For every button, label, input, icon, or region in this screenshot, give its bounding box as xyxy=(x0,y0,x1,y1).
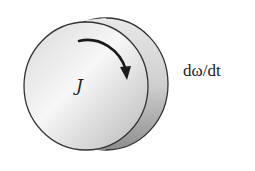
rotating-disk-diagram: J dω/dt xyxy=(0,0,255,171)
disk-drawing xyxy=(0,0,255,171)
angular-acceleration-label: dω/dt xyxy=(183,61,221,81)
inertia-label: J xyxy=(76,75,83,95)
